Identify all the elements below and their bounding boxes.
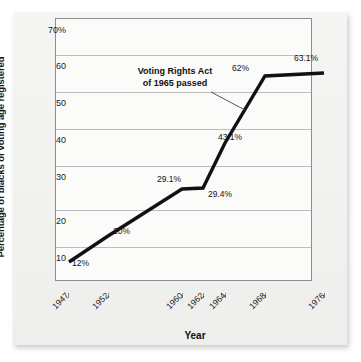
x-tick-label-1964: 1964 <box>207 290 228 311</box>
point-label-1968: 62% <box>232 63 249 73</box>
x-tick-label-1952: 1952 <box>90 290 111 311</box>
x-tick-label-1976: 1976 <box>306 290 327 311</box>
x-tick-label-1960: 1960 <box>164 290 185 311</box>
point-label-1962: 29.4% <box>208 189 232 199</box>
x-tick-label-1962: 1962 <box>185 290 206 311</box>
page-root: 70% 60 50 40 30 20 10 Percentage of blac… <box>0 0 361 362</box>
x-axis-title: Year <box>150 330 240 341</box>
annotation-line-1: Voting Rights Act <box>121 66 229 78</box>
annotation-line-2: of 1965 passed <box>121 78 229 90</box>
point-label-1960: 29.1% <box>157 174 181 184</box>
annotation-voting-rights-act: Voting Rights Act of 1965 passed <box>121 66 229 89</box>
x-tick-label-1968: 1968 <box>247 290 268 311</box>
point-label-1976: 63.1% <box>294 53 318 63</box>
x-tick-label-1947: 1947 <box>50 290 71 311</box>
point-label-1952: 20% <box>113 226 130 236</box>
point-label-1964: 43.1% <box>218 132 242 142</box>
point-label-1947: 12% <box>72 258 89 268</box>
